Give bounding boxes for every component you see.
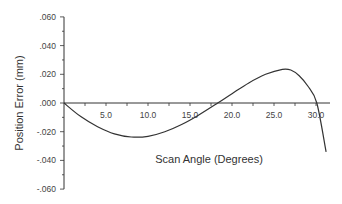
y-tick-label: .000	[39, 98, 56, 108]
x-tick-label: 10.0	[140, 110, 157, 120]
y-tick-label: .040	[39, 41, 56, 51]
x-axis-title: Scan Angle (Degrees)	[155, 153, 263, 165]
x-tick-label: 5.0	[100, 110, 112, 120]
y-tick-label: -.060	[37, 184, 57, 194]
position-error-chart: .060.040.020.000-.020-.040-.060 5.010.01…	[0, 0, 342, 204]
x-tick-label: 30.0	[308, 110, 325, 120]
y-tick-label: .020	[39, 69, 56, 79]
x-tick-label: 15.0	[182, 110, 199, 120]
x-tick-label: 25.0	[266, 110, 283, 120]
y-tick-label: -.020	[37, 127, 57, 137]
y-tick-label: -.040	[37, 155, 57, 165]
y-axis-title: Position Error (mm)	[13, 55, 25, 150]
y-axis: .060.040.020.000-.020-.040-.060	[37, 12, 64, 194]
y-tick-label: .060	[39, 12, 56, 22]
x-axis: 5.010.015.020.025.030.0	[64, 103, 330, 120]
x-tick-label: 20.0	[224, 110, 241, 120]
